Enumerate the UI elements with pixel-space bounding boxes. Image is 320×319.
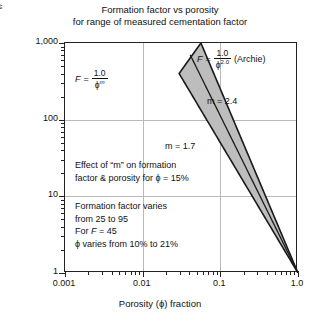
formula-general-lhs: F: [75, 73, 81, 85]
formula-archie-equals: =: [206, 53, 211, 65]
label-m-low: m = 1.7: [165, 140, 195, 152]
formula-general-equals: =: [84, 73, 89, 85]
note-range-line-3: For F = 45: [75, 225, 178, 238]
formula-archie-suffix: (Archie): [234, 53, 266, 65]
y-tick-label: 10: [2, 189, 58, 199]
formula-general-fraction: 1.0 ϕm: [92, 69, 108, 90]
formula-archie-denominator-exponent: 2.0: [221, 58, 230, 65]
y-tick-label: 1: [2, 266, 58, 276]
x-tick-label: 0.001: [34, 278, 94, 288]
band-polygon: [179, 43, 298, 273]
note-effect-of-m: Effect of “m” on formation factor & poro…: [75, 159, 189, 184]
note-range-line-2: from 25 to 95: [75, 213, 178, 226]
chart-title-line-1: Formation factor vs porosity: [0, 4, 320, 16]
x-tick-label: 1.0: [267, 278, 320, 288]
x-axis-title: Porosity (ϕ) fraction: [0, 298, 320, 309]
formula-archie-lhs: F: [197, 53, 203, 65]
formula-general-denominator-exponent: m: [100, 78, 105, 85]
formula-archie-denominator: ϕ2.0: [214, 59, 231, 70]
x-tick-major: [298, 271, 299, 277]
chart-figure: Formation factor vs porosity for range o…: [0, 0, 320, 319]
note-effect-of-m-line-2: factor & porosity for ϕ = 15%: [75, 172, 189, 185]
formula-general: F = 1.0 ϕm: [75, 69, 108, 90]
x-tick-label: 0.01: [112, 278, 172, 288]
note-effect-of-m-line-1: Effect of “m” on formation: [75, 159, 189, 172]
formula-archie: F = 1.0 ϕ2.0 (Archie): [197, 49, 266, 70]
chart-title-line-2: for range of measured cementation factor: [0, 16, 320, 28]
note-range-line-4: ϕ varies from 10% to 21%: [75, 238, 178, 251]
note-formation-factor-range: Formation factor varies from 25 to 95 Fo…: [75, 200, 178, 250]
y-tick-label: 1,000: [2, 36, 58, 46]
y-tick-label: 100: [2, 113, 58, 123]
plot-area: F = 1.0 ϕm F = 1.0 ϕ2.0 (Archie) m = 2.4…: [64, 42, 297, 272]
y-axis-title: Formation factor (F) RO RW: [0, 0, 4, 105]
note-range-line-1: Formation factor varies: [75, 200, 178, 213]
chart-title: Formation factor vs porosity for range o…: [0, 4, 320, 28]
y-axis-title-ratio-denominator: RW: [0, 2, 4, 17]
band-inner-curve: [190, 55, 298, 273]
x-tick-label: 0.1: [189, 278, 249, 288]
formula-archie-fraction: 1.0 ϕ2.0: [214, 49, 231, 70]
formula-general-denominator: ϕm: [92, 79, 108, 90]
y-axis-title-resistivity-ratio: RO RW: [0, 2, 4, 17]
label-m-high: m = 2.4: [207, 95, 237, 107]
